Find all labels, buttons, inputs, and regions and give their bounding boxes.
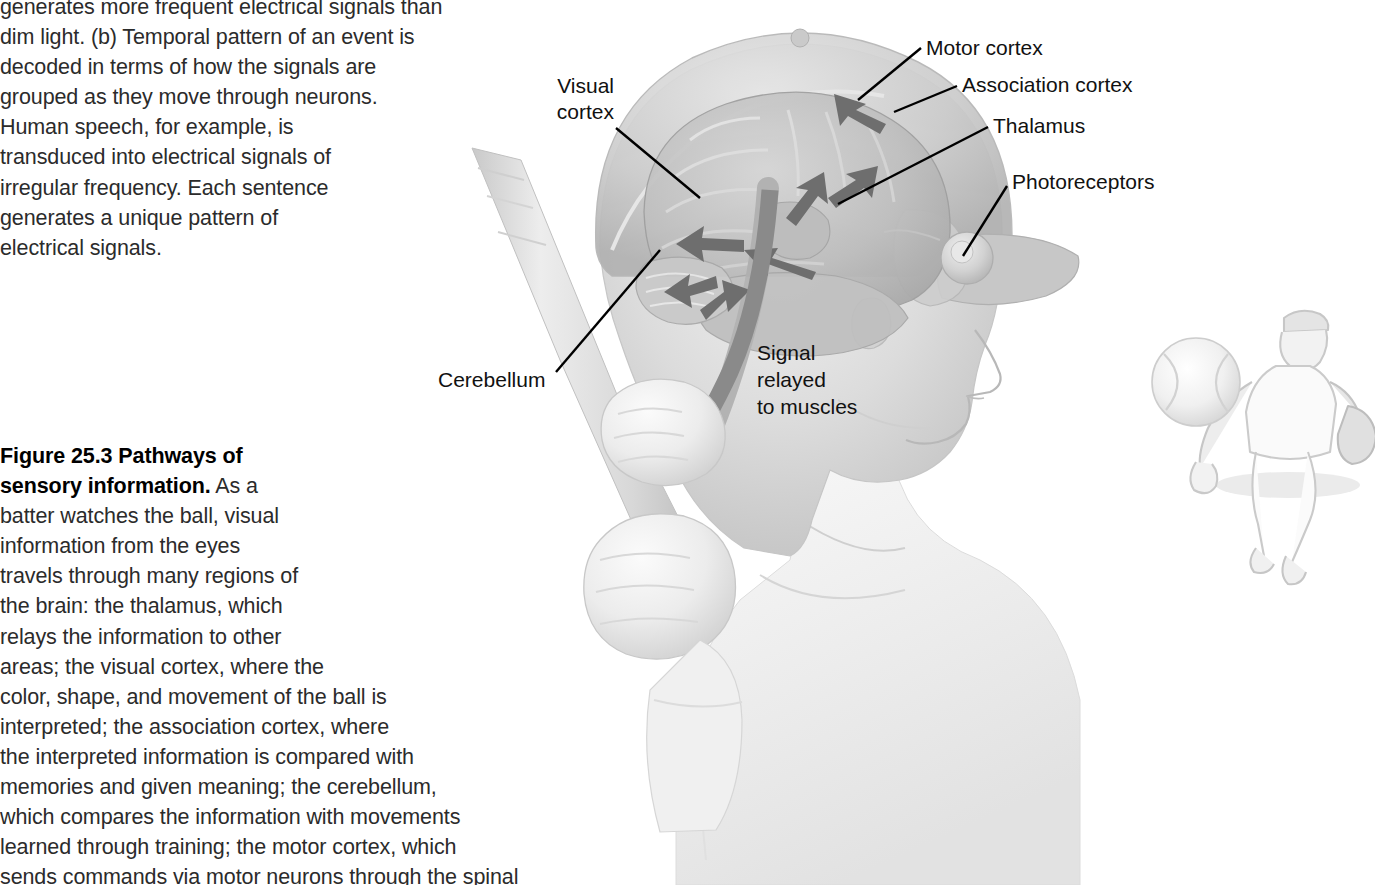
label-photoreceptors: Photoreceptors xyxy=(1012,169,1154,195)
label-signal-relayed-to-muscles: Signal relayed to muscles xyxy=(757,339,857,420)
intro-paragraph: generates more frequent electrical signa… xyxy=(0,0,470,263)
label-visual-cortex: Visual cortex xyxy=(452,73,614,125)
figure-caption: Figure 25.3 Pathways of sensory informat… xyxy=(0,441,700,885)
leader-photoreceptors xyxy=(963,186,1007,256)
figure-page: generates more frequent electrical signa… xyxy=(0,0,1375,885)
label-thalamus: Thalamus xyxy=(993,113,1085,139)
leader-cerebellum xyxy=(556,250,660,372)
leader-visual-cortex xyxy=(616,128,700,198)
leader-motor-cortex xyxy=(858,48,921,100)
label-cerebellum: Cerebellum xyxy=(438,367,545,393)
leader-association-cortex xyxy=(894,86,957,112)
label-association-cortex: Association cortex xyxy=(962,72,1132,98)
leader-thalamus xyxy=(838,127,988,204)
label-motor-cortex: Motor cortex xyxy=(926,35,1043,61)
figure-caption-body: As a batter watches the ball, visual inf… xyxy=(0,474,518,885)
figure-caption-bold: Figure 25.3 Pathways of sensory informat… xyxy=(0,444,243,498)
